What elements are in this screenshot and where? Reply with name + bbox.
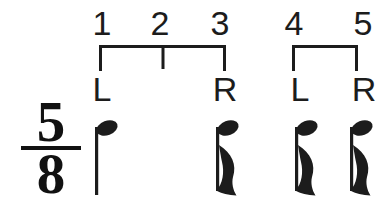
eighth-note-glyph-beat-4 [287,117,323,200]
hand-label-left-group1: L [93,72,112,106]
hand-label-right-group2: R [352,72,377,106]
count-number-3: 3 [211,6,230,40]
time-signature-numerator: 5 [20,99,82,145]
eighth-note-glyph-beat-5 [342,117,378,200]
hand-label-left-group2: L [291,72,310,106]
count-number-5: 5 [354,6,373,40]
count-number-2: 2 [151,6,170,40]
quarter-note-glyph-beat-1 [87,117,123,200]
grouping-bracket-beats-1-3 [99,45,226,71]
rhythm-diagram: 1 2 3 4 5 L R L R 5 8 [0,0,391,200]
time-signature-denominator: 8 [20,151,82,197]
grouping-bracket-beats-4-5 [292,45,358,71]
bracket-middle-tick [161,45,164,69]
time-signature: 5 8 [20,99,82,197]
count-number-4: 4 [285,6,304,40]
eighth-note-glyph-beat-3 [208,117,244,200]
hand-label-right-group1: R [213,72,238,106]
count-number-1: 1 [93,6,112,40]
